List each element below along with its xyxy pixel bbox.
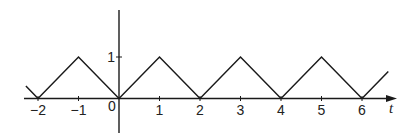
- triangle-wave-line: [26, 57, 388, 99]
- x-tick-label: 3: [237, 102, 245, 118]
- ticks: [38, 57, 362, 101]
- x-tick-label: 1: [156, 102, 164, 118]
- triangle-wave-plot: −2−101234561 t: [0, 0, 418, 135]
- x-tick-label: 0: [108, 98, 116, 114]
- x-tick-label: 6: [358, 102, 366, 118]
- x-tick-label: 4: [277, 102, 285, 118]
- x-tick-label: 2: [196, 102, 204, 118]
- x-tick-label: 5: [318, 102, 326, 118]
- y-tick-label: 1: [107, 49, 115, 65]
- x-axis-label: t: [389, 100, 394, 116]
- x-tick-label: −2: [30, 102, 46, 118]
- x-tick-label: −1: [71, 102, 87, 118]
